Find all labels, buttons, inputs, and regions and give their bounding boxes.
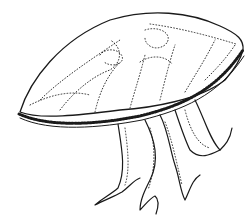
bell-outline [20, 13, 243, 116]
jellyfish-drawing [0, 0, 246, 224]
radial-canals [30, 24, 236, 112]
oral-arms [95, 100, 232, 214]
bell-margin-frill [19, 50, 243, 123]
jellyfish-illustration [0, 0, 246, 224]
